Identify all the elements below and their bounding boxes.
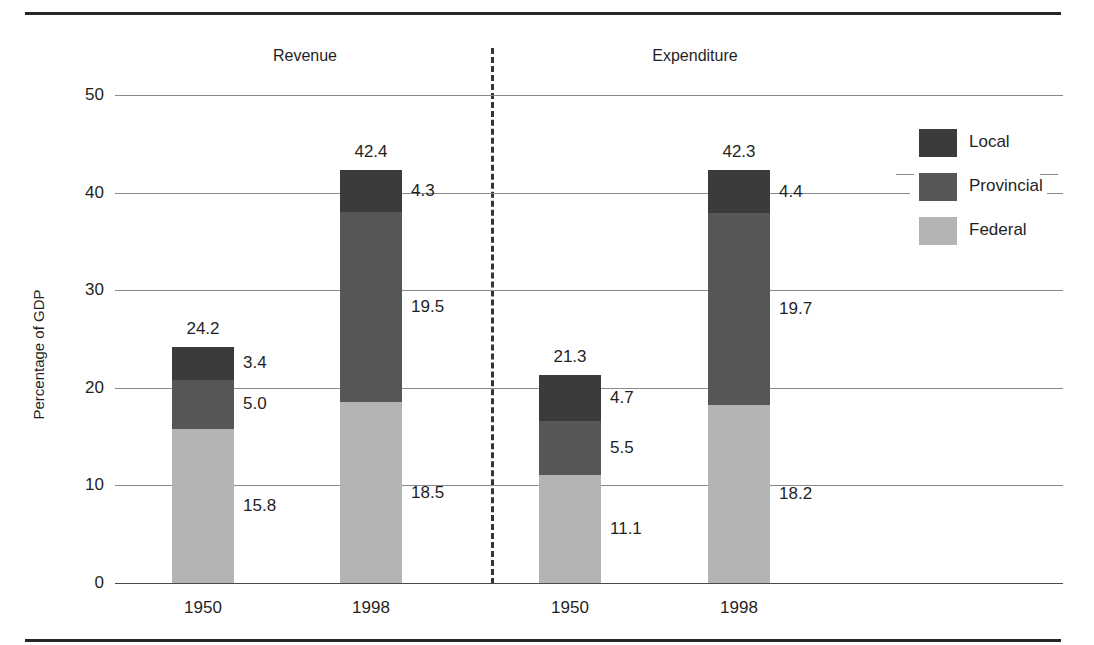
segment-value-label: 4.7 [610,389,634,406]
segment-value-label: 4.3 [411,182,435,199]
gridline-30 [115,290,1063,291]
bar-segment [172,429,234,583]
bar-total-label: 21.3 [510,348,630,365]
top-horizontal-rule [25,12,1061,15]
legend-swatch-local [919,129,957,157]
y-tick-label-50: 50 [58,86,104,103]
x-tick-label: 1998 [679,599,799,616]
segment-value-label: 18.2 [779,485,812,502]
bar-total-label: 24.2 [143,320,263,337]
legend-swatch-federal [919,217,957,245]
legend-label-federal: Federal [969,221,1027,238]
figure-container: Percentage of GDP Revenue Expenditure Lo… [0,0,1094,645]
segment-value-label: 15.8 [243,497,276,514]
legend-item-federal[interactable]: Federal [919,213,1069,257]
panel-divider-dashed-line [491,48,494,584]
y-tick-label-0: 0 [58,574,104,591]
y-tick-label-30: 30 [58,281,104,298]
segment-value-label: 4.4 [779,183,803,200]
x-tick-label: 1950 [510,599,630,616]
legend-label-provincial: Provincial [969,177,1043,194]
panel-title-expenditure: Expenditure [585,48,805,64]
bottom-horizontal-rule [25,639,1061,642]
bar-segment [340,402,402,583]
legend: Local Provincial Federal [919,125,1069,257]
bar-segment [539,375,601,421]
bar-total-label: 42.4 [311,143,431,160]
bar-segment [539,475,601,583]
bar-segment [708,170,770,213]
gridline-40-stub-1 [896,174,914,175]
y-tick-label-10: 10 [58,476,104,493]
bar-segment [539,421,601,475]
gridline-40-stub-2 [1040,174,1058,175]
bar-segment [708,213,770,405]
panel-title-revenue: Revenue [195,48,415,64]
y-tick-label-20: 20 [58,379,104,396]
segment-value-label: 19.5 [411,298,444,315]
y-axis-title: Percentage of GDP [31,270,46,440]
y-tick-label-40: 40 [58,184,104,201]
gridline-50 [115,95,1063,96]
x-tick-label: 1950 [143,599,263,616]
segment-value-label: 18.5 [411,484,444,501]
legend-label-local: Local [969,133,1010,150]
segment-value-label: 5.5 [610,439,634,456]
segment-value-label: 11.1 [610,520,642,537]
x-tick-label: 1998 [311,599,431,616]
bar-segment [172,380,234,429]
legend-item-local[interactable]: Local [919,125,1069,169]
x-axis-line [115,583,1063,584]
bar-segment [340,212,402,402]
bar-segment [172,347,234,380]
segment-value-label: 3.4 [243,354,267,371]
segment-value-label: 5.0 [243,395,267,412]
segment-value-label: 19.7 [779,300,812,317]
legend-item-provincial[interactable]: Provincial [919,169,1069,213]
bar-total-label: 42.3 [679,143,799,160]
bar-segment [340,170,402,212]
legend-swatch-provincial [919,173,957,201]
gridline-40-part-2 [1047,193,1063,194]
bar-segment [708,405,770,583]
